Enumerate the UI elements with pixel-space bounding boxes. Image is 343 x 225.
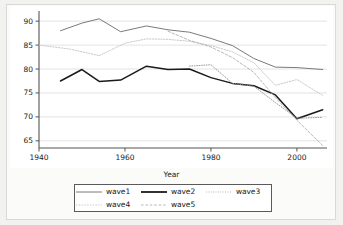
- x-tick-1940: 1940: [25, 153, 53, 162]
- y-tick-70: 70: [0, 112, 33, 121]
- y-tick-85: 85: [0, 41, 33, 50]
- legend-label-wave1: wave1: [106, 187, 130, 196]
- legend-swatch-wave4: [75, 200, 103, 210]
- series-line-wave5: [168, 31, 323, 145]
- chart-figure: 908580757065 1940196019802000 Year wave1…: [0, 0, 343, 225]
- series-line-wave2: [60, 66, 322, 119]
- legend-label-wave2: wave2: [171, 187, 195, 196]
- chart-legend: wave1wave2wave3 wave4wave5: [74, 184, 272, 212]
- legend-item-wave3[interactable]: wave3: [205, 185, 270, 198]
- y-tick-75: 75: [0, 88, 33, 97]
- legend-swatch-wave5: [140, 200, 168, 210]
- y-tick-90: 90: [0, 17, 33, 26]
- series-lines: [39, 19, 323, 146]
- legend-swatch-wave1: [75, 187, 103, 197]
- legend-row-1: wave1wave2wave3: [75, 185, 271, 198]
- legend-label-wave4: wave4: [106, 200, 130, 209]
- legend-swatch-wave2: [140, 187, 168, 197]
- plot-area: [10, 6, 333, 168]
- legend-item-wave1[interactable]: wave1: [75, 185, 140, 198]
- legend-item-wave2[interactable]: wave2: [140, 185, 205, 198]
- x-tick-1960: 1960: [111, 153, 139, 162]
- x-tick-1980: 1980: [197, 153, 225, 162]
- y-tick-80: 80: [0, 65, 33, 74]
- legend-row-2: wave4wave5: [75, 198, 271, 211]
- legend-item-wave4[interactable]: wave4: [75, 198, 140, 211]
- legend-label-wave5: wave5: [171, 200, 195, 209]
- line-chart-svg: [10, 6, 333, 168]
- x-axis-title: Year: [0, 170, 343, 179]
- legend-item-wave5[interactable]: wave5: [140, 198, 205, 211]
- series-line-wave1: [60, 19, 322, 70]
- y-tick-65: 65: [0, 136, 33, 145]
- legend-label-wave3: wave3: [236, 187, 260, 196]
- series-line-wave3: [189, 65, 322, 119]
- x-tick-2000: 2000: [283, 153, 311, 162]
- gridlines: [39, 21, 327, 141]
- legend-swatch-wave3: [205, 187, 233, 197]
- axis-lines: [36, 11, 328, 152]
